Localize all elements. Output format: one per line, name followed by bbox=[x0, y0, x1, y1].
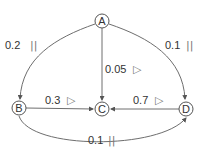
edge-b-c: 0.3 ▷ bbox=[26, 94, 93, 109]
edge-a-b: 0.2 || bbox=[5, 24, 95, 99]
node-a: A bbox=[95, 14, 109, 28]
edge-b-c-weight: 0.3 bbox=[45, 94, 60, 106]
node-b: B bbox=[12, 101, 26, 115]
edge-a-c-weight: 0.05 bbox=[105, 63, 126, 75]
graph-diagram: 0.2 || 0.1 || 0.05 ▷ 0.3 ▷ 0.7 ▷ 0.1 || … bbox=[0, 0, 204, 160]
edge-a-d-weight: 0.1 bbox=[165, 39, 180, 51]
edge-d-c: 0.7 ▷ bbox=[111, 94, 179, 109]
edge-a-b-weight: 0.2 bbox=[5, 39, 20, 51]
edge-d-c-weight: 0.7 bbox=[133, 94, 148, 106]
play-icon: ▷ bbox=[67, 94, 76, 107]
edge-a-c: 0.05 ▷ bbox=[102, 28, 142, 100]
edge-a-d: 0.1 || bbox=[109, 24, 193, 99]
node-c-label: C bbox=[98, 103, 106, 115]
node-d-label: D bbox=[182, 103, 190, 115]
pause-icon: || bbox=[108, 134, 115, 147]
play-icon: ▷ bbox=[133, 63, 142, 76]
node-d: D bbox=[179, 102, 193, 116]
node-c: C bbox=[95, 102, 109, 116]
play-icon: ▷ bbox=[155, 94, 164, 107]
edge-b-d-weight: 0.1 bbox=[88, 134, 103, 146]
node-b-label: B bbox=[15, 102, 22, 114]
node-a-label: A bbox=[98, 15, 106, 27]
pause-icon: || bbox=[186, 39, 193, 52]
pause-icon: || bbox=[30, 39, 37, 52]
edge-b-d: 0.1 || bbox=[19, 116, 186, 147]
